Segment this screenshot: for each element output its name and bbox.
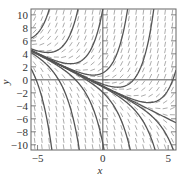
slope-segment <box>164 138 166 143</box>
slope-segment <box>69 81 72 85</box>
slope-segment <box>142 68 144 73</box>
slope-segment <box>42 138 43 143</box>
slope-segment <box>121 48 123 53</box>
slope-segment <box>56 112 57 117</box>
slope-segment <box>41 80 43 85</box>
slope-segment <box>121 144 122 149</box>
slope-segment <box>34 138 35 143</box>
slope-segment <box>106 35 107 40</box>
slope-segment <box>113 68 116 72</box>
slope-segment <box>63 144 64 149</box>
slope-segment <box>136 35 137 40</box>
slope-segment <box>84 100 86 105</box>
slope-segment <box>49 106 50 111</box>
slope-segment <box>69 56 73 58</box>
slope-segment <box>62 81 65 85</box>
slope-segment <box>77 93 79 98</box>
slope-segment <box>114 16 115 21</box>
slope-segment <box>63 119 64 124</box>
slope-segment <box>141 88 145 91</box>
slope-segment <box>63 29 65 34</box>
slope-segment <box>83 62 87 65</box>
slope-segment <box>171 138 173 142</box>
slope-segment <box>128 48 129 53</box>
slope-segment <box>128 29 129 34</box>
slope-segment <box>157 61 158 66</box>
slope-segment <box>92 29 93 34</box>
slope-segment <box>121 55 123 60</box>
slope-segment <box>156 87 159 91</box>
slope-segment <box>121 125 123 130</box>
slope-segment <box>40 62 43 66</box>
slope-segment <box>157 68 159 73</box>
slope-segment <box>163 114 168 115</box>
slope-segment <box>150 61 152 66</box>
slope-segment <box>121 23 122 28</box>
slope-segment <box>63 100 64 105</box>
slope-segment <box>172 67 173 72</box>
slope-segment <box>92 132 93 137</box>
slope-segment <box>90 69 95 71</box>
slope-segment <box>91 62 95 65</box>
slope-segment <box>165 48 166 53</box>
slope-segment <box>85 106 87 111</box>
slope-segment <box>55 68 59 72</box>
slope-segment <box>48 16 50 21</box>
slope-segment <box>114 138 115 143</box>
slope-segment <box>128 132 130 137</box>
slope-segment <box>143 23 144 28</box>
slope-segment <box>47 36 50 40</box>
slope-segment <box>112 88 117 89</box>
slope-segment <box>172 16 173 21</box>
slope-segment <box>77 87 80 91</box>
slope-segment <box>40 36 44 39</box>
y-tick-label: 0 <box>23 74 29 86</box>
slope-segment <box>127 74 130 78</box>
slope-segment <box>78 119 79 124</box>
slope-segment <box>172 42 173 47</box>
slope-segment <box>99 100 101 104</box>
slope-segment <box>48 23 50 28</box>
slope-segment <box>92 119 93 124</box>
slope-segment <box>63 125 64 130</box>
slope-segment <box>106 42 108 47</box>
slope-segment <box>172 29 173 34</box>
slope-segment <box>150 68 152 73</box>
slope-segment <box>164 144 166 149</box>
slope-segment <box>77 106 79 111</box>
slope-segment <box>135 144 136 149</box>
slope-segment <box>142 74 144 78</box>
slope-segment <box>106 55 108 59</box>
slope-segment <box>143 10 144 15</box>
slope-segment <box>150 144 151 149</box>
slope-segment <box>149 119 152 123</box>
slope-segment <box>165 16 166 21</box>
slope-segment <box>84 36 86 41</box>
slope-segment <box>128 125 130 130</box>
slope-segment <box>77 100 79 105</box>
slope-segment <box>34 80 36 85</box>
slope-segment <box>98 62 101 66</box>
slope-segment <box>77 29 79 34</box>
slope-segment <box>56 144 57 149</box>
slope-segment <box>158 16 159 21</box>
slope-segment <box>121 16 122 21</box>
slope-segment <box>49 112 50 117</box>
y-tick-label: −4 <box>16 100 28 112</box>
slope-segment <box>157 29 158 34</box>
slope-segment <box>49 119 50 124</box>
slope-segment <box>99 10 100 15</box>
slope-segment <box>34 125 35 130</box>
slope-segment <box>171 100 175 103</box>
slope-segment <box>92 23 93 28</box>
slope-segment <box>56 125 57 130</box>
slope-segment <box>33 30 36 34</box>
slope-segment <box>98 94 101 98</box>
slope-segment <box>62 36 65 40</box>
slope-segment <box>56 106 57 111</box>
slope-segment <box>63 23 65 28</box>
slope-segment <box>48 29 51 33</box>
slope-segment <box>34 106 35 111</box>
slope-segment <box>128 23 129 28</box>
slope-segment <box>107 138 108 143</box>
